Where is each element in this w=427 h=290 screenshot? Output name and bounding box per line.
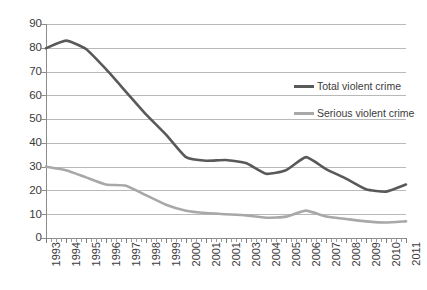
x-tick-label-1998-5: 1998 bbox=[151, 242, 162, 266]
x-tick-major bbox=[146, 238, 147, 243]
x-tick-major bbox=[326, 238, 327, 243]
x-tick-major bbox=[286, 238, 287, 243]
legend-swatch-icon-total bbox=[294, 85, 314, 88]
x-tick-label-2000-7: 2000 bbox=[191, 242, 202, 266]
x-tick-label-1997-4: 1997 bbox=[131, 242, 142, 266]
x-tick-label-1994-1: 1994 bbox=[71, 242, 82, 266]
violent-crime-line-chart: 90 80 70 60 50 40 30 20 10 0 19931994199… bbox=[0, 0, 427, 290]
x-tick-major bbox=[306, 238, 307, 243]
x-tick-major bbox=[406, 238, 407, 243]
x-tick-label-1996-3: 1996 bbox=[111, 242, 122, 266]
legend-item-serious-violent-crime: Serious violent crime bbox=[294, 105, 406, 121]
x-tick-major bbox=[106, 238, 107, 243]
x-tick-major bbox=[266, 238, 267, 243]
x-tick-major bbox=[386, 238, 387, 243]
x-tick-label-2011-18: 2011 bbox=[411, 242, 422, 266]
x-tick-label-2010-17: 2010 bbox=[391, 242, 402, 266]
x-tick-label-2003-10: 2003 bbox=[251, 242, 262, 266]
x-tick-major bbox=[86, 238, 87, 243]
x-tick-major bbox=[186, 238, 187, 243]
legend-item-total-violent-crime: Total violent crime bbox=[294, 78, 406, 94]
x-tick-label-1995-2: 1995 bbox=[91, 242, 102, 266]
x-tick-label-2004-11: 2004 bbox=[271, 242, 282, 266]
x-tick-label-2005-12: 2005 bbox=[291, 242, 302, 266]
x-tick-major bbox=[206, 238, 207, 243]
x-tick-major bbox=[366, 238, 367, 243]
x-tick-major bbox=[66, 238, 67, 243]
x-tick-label-2008-15: 2008 bbox=[351, 242, 362, 266]
x-tick-major bbox=[226, 238, 227, 243]
x-tick-major bbox=[246, 238, 247, 243]
x-tick-label-2001-9: 2001 bbox=[231, 242, 242, 266]
chart-legend: Total violent crime Serious violent crim… bbox=[294, 78, 406, 132]
legend-label-total: Total violent crime bbox=[317, 81, 401, 92]
x-tick-label-2001-8: 2001 bbox=[211, 242, 222, 266]
x-tick-major bbox=[346, 238, 347, 243]
x-axis-labels: 1993199419951996199719981999200020012001… bbox=[46, 238, 406, 290]
x-tick-label-1999-6: 1999 bbox=[171, 242, 182, 266]
x-tick-label-1993-0: 1993 bbox=[51, 242, 62, 266]
x-tick-label-2009-16: 2009 bbox=[371, 242, 382, 266]
x-tick-major bbox=[166, 238, 167, 243]
legend-label-serious: Serious violent crime bbox=[317, 108, 414, 119]
x-tick-major bbox=[126, 238, 127, 243]
legend-swatch-icon-serious bbox=[294, 112, 314, 115]
x-tick-major bbox=[46, 238, 47, 243]
x-tick-label-2006-13: 2006 bbox=[311, 242, 322, 266]
x-tick-label-2007-14: 2007 bbox=[331, 242, 342, 266]
series-line-serious-violent-crime bbox=[46, 167, 406, 223]
